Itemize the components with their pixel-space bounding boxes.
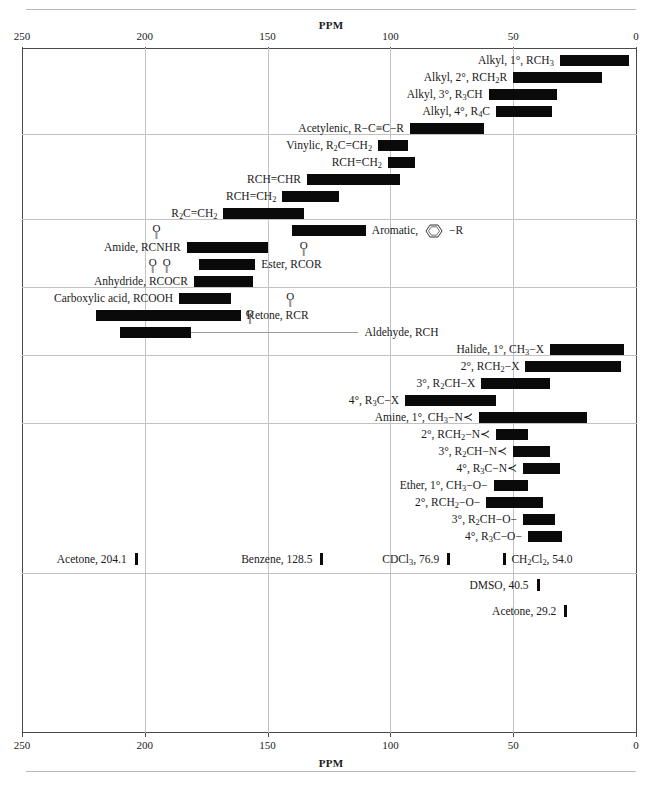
- carbonyl-oxygen-glyph: O‖: [246, 310, 254, 324]
- chart-bar-row: RCH=CH2: [22, 154, 637, 171]
- chart-bar-row: Alkyl, 3°, R3CH: [22, 86, 637, 103]
- shift-range-bar: [494, 480, 528, 491]
- chart-bar-row: Ether, 1°, CH3−O−: [22, 477, 637, 494]
- shift-range-bar: [513, 72, 601, 83]
- bar-label: Aromatic, −R: [372, 222, 463, 239]
- axis-tick-label: 0: [633, 30, 639, 42]
- solvent-tick-mark: [320, 553, 323, 565]
- shift-range-bar: [496, 429, 528, 440]
- axis-tick-label: 0: [633, 739, 639, 751]
- shift-range-bar: [513, 446, 550, 457]
- chart-bar-row: 4°, R3C−N≺: [22, 460, 637, 477]
- shift-range-bar: [481, 378, 550, 389]
- chart-bar-row: Alkyl, 1°, RCH3: [22, 52, 637, 69]
- shift-range-bar: [405, 395, 496, 406]
- chart-bar-row: 2°, RCH2−O−: [22, 494, 637, 511]
- solvent-label: CH2Cl2, 54.0: [511, 551, 572, 571]
- axis-tick-label: 100: [382, 739, 399, 751]
- carbonyl-oxygen-glyph: O‖: [153, 225, 161, 239]
- bar-label: Anhydride, RCOCR: [94, 273, 188, 289]
- chart-bar-row: 2°, RCH2−X: [22, 358, 637, 375]
- shift-range-bar: [292, 225, 366, 236]
- chart-bar-row: Halide, 1°, CH3−X: [22, 341, 637, 358]
- axis-tick-label: 250: [14, 30, 31, 42]
- shift-range-bar: [96, 310, 241, 321]
- bar-label: Carboxylic acid, RCOOH: [54, 290, 173, 306]
- shift-range-bar: [479, 412, 587, 423]
- chart-bar-row: RCH=CHR: [22, 171, 637, 188]
- bar-label: Ketone, RCR: [247, 307, 309, 323]
- chart-bar-row: RCH=CH2: [22, 188, 637, 205]
- chart-bar-row: Ketone, RCR: [22, 307, 637, 324]
- bar-label: 4°, R3C−O−: [465, 528, 522, 548]
- chart-bar-row: 3°, R2CH−N≺: [22, 443, 637, 460]
- shift-range-bar: [199, 259, 255, 270]
- benzene-ring-icon: [422, 223, 448, 239]
- shift-range-bar: [378, 140, 407, 151]
- axis-tick-label: 200: [137, 30, 154, 42]
- shift-range-bar: [525, 361, 621, 372]
- chart-bar-row: Carboxylic acid, RCOOH: [22, 290, 637, 307]
- solvent-tick-mark: [537, 579, 540, 591]
- shift-range-bar: [187, 242, 268, 253]
- solvent-tick-mark: [447, 553, 450, 565]
- bar-label: Ester, RCOR: [261, 256, 321, 272]
- axis-tick-label: 50: [508, 739, 519, 751]
- shift-range-bar: [282, 191, 338, 202]
- bar-label: Acetylenic, R−C≡C−R: [298, 120, 404, 136]
- shift-range-bar: [523, 514, 555, 525]
- chart-bar-row: Aromatic, −R: [22, 222, 637, 239]
- chart-bar-row: 3°, R2CH−X: [22, 375, 637, 392]
- shift-range-bar: [179, 293, 231, 304]
- shift-range-bar: [388, 157, 415, 168]
- axis-tick-label: 150: [259, 739, 276, 751]
- axis-tick-label: 200: [137, 739, 154, 751]
- shift-range-bar: [523, 463, 560, 474]
- solvent-tick-mark: [564, 605, 567, 617]
- carbonyl-oxygen-glyph: O‖: [286, 293, 294, 307]
- chart-bar-row: Anhydride, RCOCR: [22, 273, 637, 290]
- solvent-tick-mark: [503, 553, 506, 565]
- chart-bar-row: 4°, R3C−X: [22, 392, 637, 409]
- carbonyl-oxygen-glyph: O‖: [300, 242, 308, 256]
- solvent-label: CDCl3, 76.9: [382, 551, 439, 571]
- axis-tick-label: 100: [382, 30, 399, 42]
- chart-bar-row: Vinylic, R2C=CH2: [22, 137, 637, 154]
- chart-bar-row: Amide, RCNHR: [22, 239, 637, 256]
- shift-range-bar: [410, 123, 484, 134]
- shift-range-bar: [560, 55, 629, 66]
- x-axis-top: 250200150100500: [22, 30, 637, 48]
- chart-bar-row: 2°, RCH2−N≺: [22, 426, 637, 443]
- solvent-label: Benzene, 128.5: [241, 551, 312, 567]
- carbonyl-oxygen-glyph: O‖O‖: [146, 259, 174, 273]
- shift-range-bar: [120, 327, 191, 338]
- chart-bar-row: 3°, R2CH−O−: [22, 511, 637, 528]
- chart-bar-row: Alkyl, 2°, RCH2R: [22, 69, 637, 86]
- plot-frame-top: [22, 48, 637, 49]
- shift-range-bar: [496, 106, 552, 117]
- chart-bar-row: Alkyl, 4°, R4C: [22, 103, 637, 120]
- section-separator: [22, 573, 637, 574]
- shift-range-bar: [550, 344, 624, 355]
- chart-bar-row: R2C=CH2: [22, 205, 637, 222]
- solvent-label: Acetone, 204.1: [57, 551, 127, 567]
- axis-tick-label: 250: [14, 739, 31, 751]
- shift-range-bar: [307, 174, 400, 185]
- axis-tick-label: 50: [508, 30, 519, 42]
- shift-range-bar: [223, 208, 304, 219]
- bar-label: Aldehyde, RCH: [364, 324, 438, 340]
- shift-range-bar: [194, 276, 253, 287]
- solvent-label: DMSO, 40.5: [469, 577, 528, 593]
- nmr-shift-chart-plot: Alkyl, 1°, RCH3Alkyl, 2°, RCH2RAlkyl, 3°…: [22, 48, 637, 733]
- solvent-label: Acetone, 29.2: [492, 603, 556, 619]
- chart-bar-row: Amine, 1°, CH3−N≺: [22, 409, 637, 426]
- chart-title-bottom: PPM: [0, 757, 662, 769]
- page-rule-bottom: [26, 771, 636, 772]
- shift-range-bar: [528, 531, 562, 542]
- plot-frame-bottom: [22, 732, 637, 733]
- axis-tick-label: 150: [259, 30, 276, 42]
- bar-label: Amide, RCNHR: [104, 239, 181, 255]
- chart-bar-row: 4°, R3C−O−: [22, 528, 637, 545]
- shift-range-bar: [489, 89, 558, 100]
- chart-bar-row: Ester, RCOR: [22, 256, 637, 273]
